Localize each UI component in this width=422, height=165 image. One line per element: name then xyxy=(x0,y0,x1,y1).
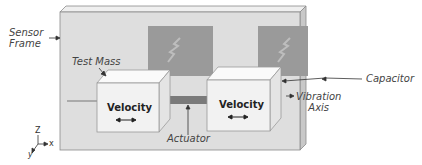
axis-z-label: Z xyxy=(35,126,40,135)
axis-y-label: y xyxy=(28,150,33,159)
sensor-frame-label: Sensor Frame xyxy=(9,27,43,49)
vibration-axis-label-line1: Vibration xyxy=(296,91,341,102)
test-mass-label: Test Mass xyxy=(72,56,121,67)
diagram-canvas xyxy=(0,0,422,165)
velocity-label-left: Velocity xyxy=(107,102,152,113)
actuator-label: Actuator xyxy=(167,133,210,144)
velocity-label-right: Velocity xyxy=(219,99,264,110)
sensor-frame-label-line1: Sensor xyxy=(9,27,43,38)
coordinate-axes-icon xyxy=(32,135,48,153)
actuator-bar xyxy=(165,96,209,104)
axis-x-label: x xyxy=(49,139,54,148)
capacitor-plate-left xyxy=(148,26,213,76)
capacitor-label: Capacitor xyxy=(366,73,414,84)
vibration-axis-label: Vibration Axis xyxy=(296,91,341,113)
sensor-frame-pointer xyxy=(49,36,60,40)
sensor-frame-label-line2: Frame xyxy=(9,38,43,49)
vibration-axis-label-line2: Axis xyxy=(296,102,341,113)
test-mass-right-top xyxy=(207,67,281,80)
test-mass-left-top xyxy=(97,70,170,83)
frame-top-edge xyxy=(60,6,306,12)
